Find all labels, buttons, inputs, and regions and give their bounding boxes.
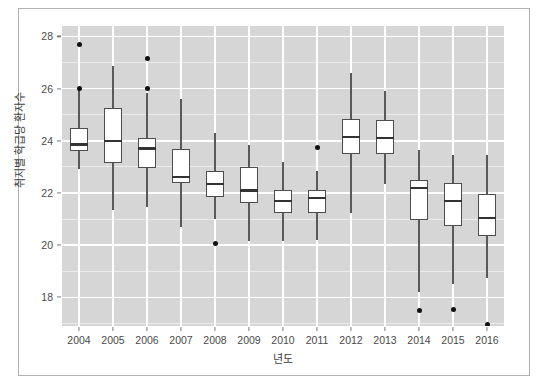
boxplot-median <box>70 143 88 145</box>
boxplot-box <box>138 138 156 168</box>
x-tick-mark <box>452 327 453 331</box>
boxplot-outlier-point <box>145 56 150 61</box>
boxplot-box <box>70 128 88 151</box>
x-tick-label: 2007 <box>169 334 192 346</box>
x-tick-label: 2013 <box>373 334 396 346</box>
boxplot-outlier-point <box>451 307 456 312</box>
y-tick-label: 26 <box>41 83 53 95</box>
x-tick-label: 2010 <box>271 334 294 346</box>
x-tick-mark <box>282 327 283 331</box>
boxplot-box <box>478 194 496 236</box>
x-tick-mark <box>146 327 147 331</box>
x-tick-mark <box>180 327 181 331</box>
boxplot-outlier-point <box>77 86 82 91</box>
y-tick-mark <box>57 192 61 193</box>
boxplot-median <box>104 140 122 142</box>
boxplot-box <box>444 183 462 226</box>
boxplot-box <box>240 167 258 204</box>
boxplot-median <box>342 136 360 138</box>
boxplot-outlier-point <box>145 86 150 91</box>
x-tick-label: 2009 <box>237 334 260 346</box>
boxplot-whisker <box>418 150 420 292</box>
boxplot-median <box>376 137 394 139</box>
y-tick-mark <box>57 245 61 246</box>
x-tick-mark <box>418 327 419 331</box>
boxplot-outlier-point <box>213 241 218 246</box>
x-tick-label: 2015 <box>441 334 464 346</box>
y-tick-label: 22 <box>41 187 53 199</box>
x-tick-mark <box>78 327 79 331</box>
x-tick-mark <box>214 327 215 331</box>
boxplot-outlier-point <box>485 322 490 326</box>
x-tick-label: 2014 <box>407 334 430 346</box>
x-tick-mark <box>316 327 317 331</box>
x-tick-mark <box>350 327 351 331</box>
boxplot-median <box>478 217 496 219</box>
boxplot-median <box>172 176 190 178</box>
boxplot-median <box>308 197 326 199</box>
y-tick-mark <box>57 88 61 89</box>
x-axis-title: 년도 <box>62 350 504 366</box>
x-tick-mark <box>384 327 385 331</box>
boxplot-box <box>104 108 122 163</box>
x-tick-label: 2006 <box>135 334 158 346</box>
boxplot-box <box>308 190 326 212</box>
boxplot-median <box>274 200 292 202</box>
y-tick-label: 18 <box>41 291 53 303</box>
x-tick-mark <box>112 327 113 331</box>
boxplot-median <box>138 147 156 149</box>
y-tick-mark <box>57 297 61 298</box>
y-tick-label: 24 <box>41 135 53 147</box>
x-tick-label: 2011 <box>306 334 329 346</box>
boxplot-median <box>206 183 224 185</box>
boxplot-outlier-point <box>77 42 82 47</box>
x-tick-mark <box>486 327 487 331</box>
x-tick-label: 2016 <box>475 334 498 346</box>
y-tick-label: 28 <box>41 30 53 42</box>
y-axis-title: 취지별 학급당 환자수 <box>11 75 27 205</box>
y-tick-label: 20 <box>41 239 53 251</box>
boxplot-outlier-point <box>417 308 422 313</box>
plot-panel <box>62 26 504 326</box>
boxplot-outlier-point <box>315 145 320 150</box>
x-tick-label: 2004 <box>67 334 90 346</box>
boxplot-median <box>444 200 462 202</box>
gridline-major-vertical <box>78 26 80 326</box>
x-tick-label: 2008 <box>203 334 226 346</box>
y-tick-mark <box>57 36 61 37</box>
y-tick-mark <box>57 140 61 141</box>
x-tick-mark <box>248 327 249 331</box>
boxplot-median <box>240 189 258 191</box>
x-tick-label: 2012 <box>339 334 362 346</box>
x-tick-label: 2005 <box>101 334 124 346</box>
chart-figure: 182022242628 200420052006200720082009201… <box>0 0 548 390</box>
boxplot-median <box>410 187 428 189</box>
